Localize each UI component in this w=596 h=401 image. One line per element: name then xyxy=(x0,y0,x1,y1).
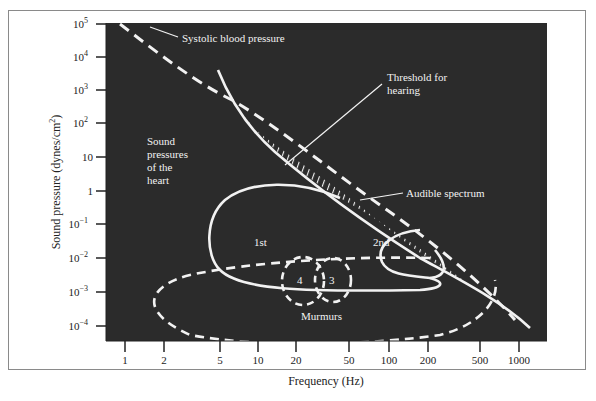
x-tick-label: 5 xyxy=(217,354,223,366)
y-tick-label: 1 xyxy=(88,185,94,197)
y-tick-label: 102 xyxy=(73,115,88,129)
x-axis-title: Frequency (Hz) xyxy=(288,374,364,388)
heart-label-line3: of the xyxy=(147,161,172,173)
y-ticks: 10510410310210110−110−210−310−4 xyxy=(68,16,106,332)
x-ticks: 1251020501002005001000 xyxy=(122,341,530,366)
x-tick-label: 1000 xyxy=(508,354,531,366)
x-tick-label: 200 xyxy=(420,354,437,366)
third-label: 3 xyxy=(329,274,335,286)
threshold-label-line2: hearing xyxy=(387,84,420,96)
first-label: 1st xyxy=(254,236,267,248)
audible-label: Audible spectrum xyxy=(406,187,485,199)
threshold-label-line1: Threshold for xyxy=(387,71,448,83)
y-tick-label: 104 xyxy=(73,49,88,63)
heart-label-line1: Sound xyxy=(147,135,176,147)
y-tick-label: 10 xyxy=(82,151,94,163)
heart-label-line4: heart xyxy=(147,174,169,186)
murmurs-label: Murmurs xyxy=(301,310,342,322)
y-tick-label: 10−3 xyxy=(68,284,88,298)
y-tick-label: 103 xyxy=(73,82,88,96)
x-tick-label: 10 xyxy=(253,354,265,366)
heart-label-line2: pressures xyxy=(147,148,188,160)
y-tick-label: 10−4 xyxy=(68,318,88,332)
x-tick-label: 50 xyxy=(344,354,356,366)
chart: Systolic blood pressure Threshold for he… xyxy=(0,0,596,401)
y-tick-label: 10−1 xyxy=(68,216,88,230)
x-tick-label: 500 xyxy=(472,354,489,366)
y-tick-label: 10−2 xyxy=(68,250,88,264)
x-tick-label: 1 xyxy=(122,354,128,366)
systolic-label: Systolic blood pressure xyxy=(182,32,285,44)
second-label: 2nd xyxy=(373,236,390,248)
x-tick-label: 20 xyxy=(291,354,303,366)
x-tick-label: 2 xyxy=(161,354,167,366)
fourth-label: 4 xyxy=(297,274,303,286)
x-tick-label: 100 xyxy=(381,354,398,366)
y-tick-label: 105 xyxy=(73,16,88,30)
y-axis-title: Sound pressure (dynes/cm2) xyxy=(48,115,63,250)
